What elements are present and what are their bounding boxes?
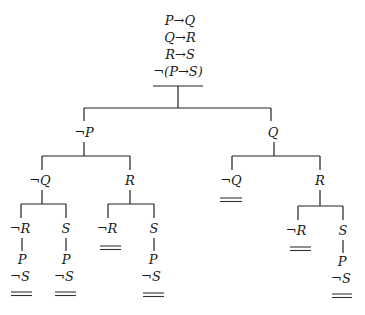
node-not-q-left: ¬Q [29,173,51,188]
branch-f: S P ¬S [331,223,352,298]
node-label: P [148,252,158,267]
node-r-right: R [314,173,325,188]
node-label: ¬R [286,223,307,238]
premise-2: Q→R [164,30,196,45]
node-label: S [62,221,71,236]
premise-3: R→S [164,47,195,62]
root-premises: P→Q Q→R R→S ¬(P→S) [153,13,203,79]
node-q: Q [268,125,279,140]
node-not-q-right: ¬Q [220,173,242,188]
branch-c: ¬R [97,221,121,250]
node-label: ¬S [141,269,161,284]
node-label: ¬S [54,269,74,284]
premise-4: ¬(P→S) [153,64,203,79]
branch-d: S P ¬S [141,221,164,297]
branch-a: ¬R P ¬S [10,221,32,296]
truth-tree-diagram: P→Q Q→R R→S ¬(P→S) ¬P Q ¬Q R ¬Q R ¬R P ¬… [0,0,365,315]
node-not-p: ¬P [74,125,94,140]
premise-1: P→Q [164,13,196,28]
node-r-left: R [124,173,135,188]
node-label: P [337,254,347,269]
branch-b: S P ¬S [54,221,76,296]
node-label: P [61,252,71,267]
node-label: P [17,252,27,267]
node-label: S [339,223,348,238]
branch-e: ¬R [286,223,311,251]
node-label: ¬S [331,271,351,286]
node-label: S [150,221,159,236]
node-label: ¬S [10,269,30,284]
node-label: ¬R [97,221,118,236]
node-label: ¬R [10,221,31,236]
